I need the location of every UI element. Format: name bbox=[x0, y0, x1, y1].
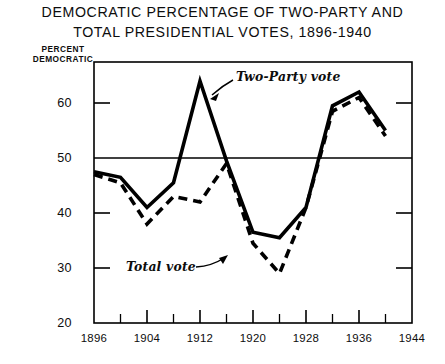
leader-line-two-party bbox=[212, 80, 233, 95]
x-axis-ticks bbox=[121, 310, 386, 323]
arrowhead-two-party bbox=[210, 93, 219, 101]
chart-plot-area bbox=[0, 0, 445, 364]
annotation-two-party-vote: Two-Party vote bbox=[236, 69, 341, 84]
series-line-total-vote bbox=[94, 98, 386, 274]
arrowhead-total bbox=[219, 255, 228, 264]
annotation-total-vote: Total vote bbox=[126, 259, 196, 274]
leader-line-total bbox=[196, 258, 224, 267]
chart-page: DEMOCRATIC PERCENTAGE OF TWO-PARTY AND T… bbox=[0, 0, 445, 364]
